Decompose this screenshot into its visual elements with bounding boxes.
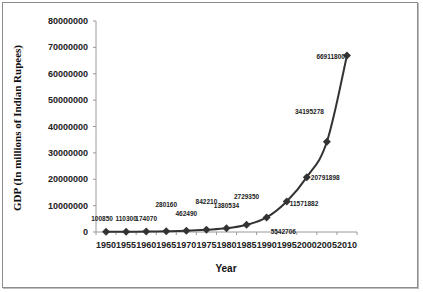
- diamond-marker-icon: [182, 227, 190, 235]
- x-tick-label: 1985: [237, 240, 257, 250]
- x-axis-label: Year: [215, 263, 236, 274]
- diamond-marker-icon: [243, 221, 251, 229]
- data-label: 1380534: [214, 202, 240, 209]
- diamond-marker-icon: [202, 226, 210, 234]
- y-tick-label: 20000000: [48, 174, 88, 184]
- diamond-marker-icon: [142, 228, 150, 236]
- x-tick-label: 1950: [96, 240, 116, 250]
- data-label: 66911800: [316, 53, 345, 60]
- x-tick-label: 2005: [317, 240, 337, 250]
- data-label: 462490: [175, 210, 197, 217]
- x-tick-label: 1980: [216, 240, 236, 250]
- x-axis: 1950195519601965197019751980198519901995…: [96, 232, 357, 250]
- diamond-marker-icon: [223, 224, 231, 232]
- y-tick-label: 60000000: [48, 69, 88, 79]
- diamond-marker-icon: [323, 138, 331, 146]
- y-axis-label: GDP (In millions of Indian Rupees): [11, 45, 24, 211]
- data-labels: 1008501103001740702801604624908422101380…: [91, 53, 345, 236]
- diamond-marker-icon: [122, 228, 130, 236]
- x-tick-label: 1965: [156, 240, 176, 250]
- data-label: 11571882: [290, 200, 319, 207]
- data-label: 174070: [135, 215, 157, 222]
- y-tick-label: 10000000: [48, 201, 88, 211]
- data-label: 20791898: [311, 174, 340, 181]
- y-tick-label: 80000000: [48, 16, 88, 26]
- y-axis: 0100000002000000030000000400000005000000…: [48, 16, 96, 237]
- data-label: 100850: [91, 215, 113, 222]
- y-tick-label: 50000000: [48, 95, 88, 105]
- x-tick-label: 1990: [257, 240, 277, 250]
- x-tick-label: 1975: [196, 240, 216, 250]
- data-label: 110300: [115, 215, 137, 222]
- x-tick-label: 2010: [337, 240, 357, 250]
- diamond-marker-icon: [102, 228, 110, 236]
- data-label: 34195278: [295, 108, 324, 115]
- data-label: 280160: [155, 201, 177, 208]
- x-tick-label: 1995: [277, 240, 297, 250]
- diamond-marker-icon: [162, 227, 170, 235]
- y-tick-label: 70000000: [48, 42, 88, 52]
- x-tick-label: 1955: [116, 240, 136, 250]
- y-tick-label: 30000000: [48, 148, 88, 158]
- x-tick-label: 1960: [136, 240, 156, 250]
- x-tick-label: 1970: [176, 240, 196, 250]
- gdp-line-chart: 0100000002000000030000000400000005000000…: [0, 0, 423, 292]
- data-label: 2729350: [234, 193, 260, 200]
- x-tick-label: 2000: [297, 240, 317, 250]
- data-label: 5542706: [271, 228, 297, 235]
- y-tick-label: 40000000: [48, 122, 88, 132]
- y-tick-label: 0: [83, 227, 88, 237]
